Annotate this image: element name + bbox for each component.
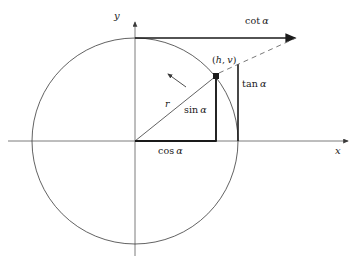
radius-label-text: r [165,98,170,109]
sine-label-arg: α [200,104,207,115]
cotangent-label-fn: cot [245,15,260,26]
tangent-label-fn: tan [242,78,258,89]
x-axis-label: x [335,146,341,156]
point-marker [213,73,219,79]
radius-label: r [165,99,170,109]
cosine-label-arg: α [176,145,183,156]
y-axis-label: y [114,11,120,21]
cotangent-label-arg: α [262,15,269,26]
trig-diagram-figure: y x cot α (h, v) tan α r sin α cos α [0,0,361,272]
cosine-label: cos α [158,146,183,156]
diagram-canvas [0,0,361,272]
sine-label-fn: sin [184,104,198,115]
rotation-direction-arrow [168,74,186,87]
point-label: (h, v) [212,55,236,65]
cosine-label-fn: cos [158,145,174,156]
tangent-label-arg: α [260,78,267,89]
sine-label: sin α [184,105,207,115]
tangent-label: tan α [242,79,266,89]
cotangent-label: cot α [245,16,269,26]
